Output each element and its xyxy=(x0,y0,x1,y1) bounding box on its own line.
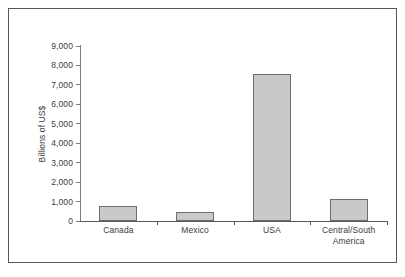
y-axis-title: Billions of US$ xyxy=(36,9,49,258)
plot-area: 01,0002,0003,0004,0005,0006,0007,0008,00… xyxy=(80,46,387,221)
y-axis-tick: 3,000 xyxy=(51,158,80,168)
x-axis-category-label-line: Mexico xyxy=(157,225,234,236)
x-axis-category-label-line: America xyxy=(310,236,387,247)
y-axis-tick-mark xyxy=(76,123,80,124)
x-axis-category-label-line: Central/South xyxy=(310,225,387,236)
y-axis-tick-label: 6,000 xyxy=(51,99,76,109)
bar xyxy=(330,199,368,221)
y-axis-tick: 5,000 xyxy=(51,119,80,129)
y-axis-tick-label: 8,000 xyxy=(51,60,76,70)
y-axis-title-text: Billions of US$ xyxy=(38,105,48,162)
y-axis-tick-mark xyxy=(76,221,80,222)
x-axis-tick-mark xyxy=(387,221,388,225)
y-axis-tick: 0 xyxy=(68,216,80,226)
y-axis-tick-label: 3,000 xyxy=(51,158,76,168)
y-axis-tick: 6,000 xyxy=(51,99,80,109)
y-axis-tick-label: 2,000 xyxy=(51,177,76,187)
y-axis-tick-mark xyxy=(76,46,80,47)
y-axis-tick-label: 9,000 xyxy=(51,41,76,51)
y-axis-tick-label: 7,000 xyxy=(51,80,76,90)
y-axis-tick: 7,000 xyxy=(51,80,80,90)
y-axis-tick-mark xyxy=(76,104,80,105)
y-axis-tick: 9,000 xyxy=(51,41,80,51)
y-axis-tick-mark xyxy=(76,65,80,66)
y-axis-tick: 1,000 xyxy=(51,197,80,207)
x-axis-category-label: Canada xyxy=(80,225,157,236)
x-axis-category-label: Mexico xyxy=(157,225,234,236)
chart-frame: Billions of US$ 01,0002,0003,0004,0005,0… xyxy=(8,8,397,263)
y-axis-tick: 8,000 xyxy=(51,60,80,70)
x-axis-category-label: USA xyxy=(234,225,311,236)
y-axis-tick: 2,000 xyxy=(51,177,80,187)
x-axis-category-label-line: Canada xyxy=(80,225,157,236)
y-axis-tick-mark xyxy=(76,201,80,202)
y-axis-tick-label: 0 xyxy=(68,216,76,226)
y-axis-tick-mark xyxy=(76,162,80,163)
y-axis-tick-label: 5,000 xyxy=(51,119,76,129)
y-axis-tick-label: 4,000 xyxy=(51,138,76,148)
bar xyxy=(253,74,291,221)
y-axis-tick-mark xyxy=(76,143,80,144)
bar xyxy=(99,206,137,221)
y-axis-tick-mark xyxy=(76,182,80,183)
y-axis-tick: 4,000 xyxy=(51,138,80,148)
y-axis-tick-label: 1,000 xyxy=(51,197,76,207)
x-axis-category-label-line: USA xyxy=(234,225,311,236)
y-axis-tick-mark xyxy=(76,84,80,85)
bar xyxy=(176,212,214,221)
x-axis-category-label: Central/SouthAmerica xyxy=(310,225,387,246)
chart-figure: Billions of US$ 01,0002,0003,0004,0005,0… xyxy=(0,0,405,277)
